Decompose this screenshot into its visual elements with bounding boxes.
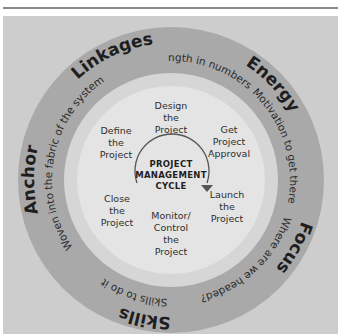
svg-text:Close: Close <box>104 193 130 204</box>
svg-text:Project: Project <box>155 246 188 257</box>
svg-text:PROJECT: PROJECT <box>149 159 192 169</box>
svg-text:Project: Project <box>100 149 133 160</box>
svg-text:the: the <box>163 112 179 123</box>
svg-text:the: the <box>109 205 125 216</box>
project-management-cycle-diagram: Linkages Energy Anchor Focus Skills Stre… <box>0 0 341 334</box>
svg-text:CYCLE: CYCLE <box>155 181 186 191</box>
svg-text:Approval: Approval <box>208 148 250 159</box>
svg-text:Project: Project <box>213 136 246 147</box>
svg-text:Define: Define <box>100 125 131 136</box>
svg-text:the: the <box>108 137 124 148</box>
svg-text:Project: Project <box>101 217 134 228</box>
svg-text:Launch: Launch <box>210 189 244 200</box>
svg-text:Project: Project <box>155 124 188 135</box>
svg-text:Design: Design <box>155 100 188 111</box>
svg-text:Monitor/: Monitor/ <box>151 210 191 221</box>
svg-text:MANAGEMENT: MANAGEMENT <box>135 170 207 180</box>
svg-text:Get: Get <box>221 124 238 135</box>
svg-text:the: the <box>163 234 179 245</box>
svg-text:Project: Project <box>211 213 244 224</box>
svg-text:the: the <box>219 201 235 212</box>
svg-text:Control: Control <box>154 222 188 233</box>
